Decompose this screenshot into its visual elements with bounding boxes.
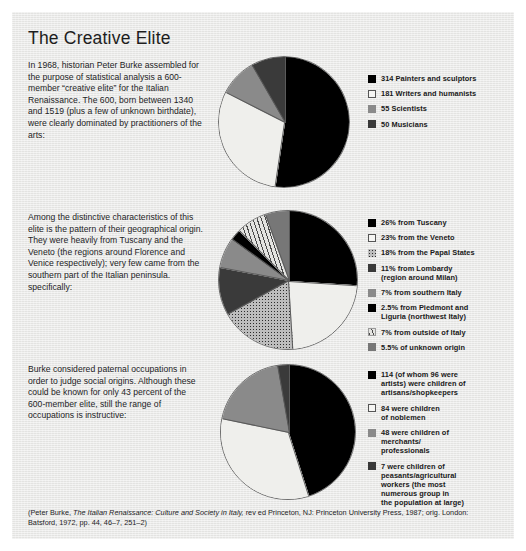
legend-label: 314 Painters and sculptors xyxy=(381,74,476,83)
legend-swatch-white-icon xyxy=(368,90,376,98)
legend-swatch-dotted-icon xyxy=(368,249,376,257)
legend-item: 26% from Tuscany xyxy=(368,218,475,227)
legend-swatch-white-icon xyxy=(368,234,376,242)
legend-label: 18% from the Papal States xyxy=(381,248,475,257)
pie-slice-divider xyxy=(289,365,290,433)
legend-item: 23% from the Veneto xyxy=(368,233,475,242)
legend-item: 181 Writers and humanists xyxy=(368,89,476,98)
legend-item: 50 Musicians xyxy=(368,120,476,129)
legend-item: 11% from Lombardy (region around Milan) xyxy=(368,264,475,282)
legend-label: 11% from Lombardy (region around Milan) xyxy=(381,264,458,282)
legend-item: 114 (of whom 96 were artists) were child… xyxy=(368,370,466,398)
legend-label: 23% from the Veneto xyxy=(381,233,455,242)
legend-item: 18% from the Papal States xyxy=(368,248,475,257)
legend-item: 84 were children of noblemen xyxy=(368,404,466,422)
pie-chart-professions xyxy=(218,56,350,188)
legend-label: 50 Musicians xyxy=(381,120,428,129)
legend-swatch-dark-icon xyxy=(368,120,376,128)
legend-label: 7% from southern Italy xyxy=(381,288,462,297)
source-citation: (Peter Burke, The Italian Renaissance: C… xyxy=(28,508,498,528)
legend-item: 55 Scientists xyxy=(368,104,476,113)
legend-professions: 314 Painters and sculptors181 Writers an… xyxy=(368,74,476,135)
legend-swatch-black-icon xyxy=(368,219,376,227)
legend-label: 55 Scientists xyxy=(381,104,427,113)
legend-item: 314 Painters and sculptors xyxy=(368,74,476,83)
legend-swatch-dark-icon xyxy=(368,462,376,470)
legend-item: 7% from southern Italy xyxy=(368,288,475,297)
legend-swatch-striped-icon xyxy=(368,328,376,336)
pie-chart-occupations xyxy=(220,364,356,500)
legend-label: 2.5% from Piedmont and Liguria (northwes… xyxy=(381,303,468,321)
legend-label: 84 were children of noblemen xyxy=(381,404,440,422)
citation-title: The Italian Renaissance: Culture and Soc… xyxy=(73,508,244,517)
legend-label: 48 were children of merchants/ professio… xyxy=(381,428,449,456)
legend-swatch-gray-icon xyxy=(368,429,376,437)
section-blurb: Among the distinctive characteristics of… xyxy=(28,212,204,293)
legend-swatch-black-icon xyxy=(368,75,376,83)
citation-part1: (Peter Burke, xyxy=(28,508,73,517)
legend-label: 26% from Tuscany xyxy=(381,218,447,227)
legend-label: 7% from outside of Italy xyxy=(381,328,466,337)
legend-swatch-white-icon xyxy=(368,404,376,412)
legend-swatch-gray-icon xyxy=(368,105,376,113)
poster-page: The Creative Elite In 1968, historian Pe… xyxy=(12,12,514,539)
legend-geography: 26% from Tuscany23% from the Veneto18% f… xyxy=(368,218,475,358)
legend-item: 7% from outside of Italy xyxy=(368,328,475,337)
pie-chart-geography xyxy=(218,210,358,350)
legend-swatch-black-icon xyxy=(368,371,376,379)
legend-label: 181 Writers and humanists xyxy=(381,89,476,98)
legend-label: 114 (of whom 96 were artists) were child… xyxy=(381,370,466,398)
legend-swatch-black-icon xyxy=(368,304,376,312)
pie-slice-divider xyxy=(289,211,290,281)
legend-item: 5.5% of unknown origin xyxy=(368,343,475,352)
legend-occupations: 114 (of whom 96 were artists) were child… xyxy=(368,370,466,514)
legend-item: 2.5% from Piedmont and Liguria (northwes… xyxy=(368,303,475,321)
legend-label: 5.5% of unknown origin xyxy=(381,343,465,352)
section-blurb: In 1968, historian Peter Burke assembled… xyxy=(28,60,204,141)
page-title: The Creative Elite xyxy=(28,28,171,49)
section-blurb: Burke considered paternal occupations in… xyxy=(28,364,204,422)
legend-item: 7 were children of peasants/agricultural… xyxy=(368,462,466,508)
pie-slice-divider xyxy=(285,57,286,123)
legend-label: 7 were children of peasants/agricultural… xyxy=(381,462,464,508)
legend-swatch-midgray-icon xyxy=(368,343,376,351)
legend-swatch-dark-icon xyxy=(368,264,376,272)
legend-swatch-gray-icon xyxy=(368,289,376,297)
legend-item: 48 were children of merchants/ professio… xyxy=(368,428,466,456)
